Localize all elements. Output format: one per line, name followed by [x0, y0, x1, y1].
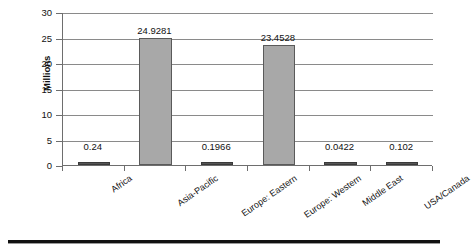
x-axis-category-label: Asia-Pacific: [175, 173, 219, 208]
bar: [324, 162, 356, 166]
bar-value-label: 24.9281: [124, 26, 186, 36]
bar: [78, 162, 110, 166]
x-axis-tick-mark: [185, 166, 186, 171]
bar-value-label: 0.1966: [185, 142, 247, 152]
x-axis-tick-mark: [432, 166, 433, 171]
y-axis-tick-label: 25: [0, 34, 52, 44]
gridline: [63, 115, 433, 116]
x-axis-category-label: Europe: Western: [302, 173, 363, 220]
x-axis-tick-mark: [247, 166, 248, 171]
x-axis-tick-mark: [309, 166, 310, 171]
y-axis-tick-label: 20: [0, 59, 52, 69]
x-axis-tick-mark: [62, 166, 63, 171]
bar: [139, 38, 171, 165]
y-axis-tick-mark: [56, 115, 62, 116]
y-axis-tick-label: 15: [0, 85, 52, 95]
bar-value-label: 23.4528: [247, 33, 309, 43]
x-axis-category-label: Middle East: [360, 173, 404, 208]
x-axis-category-label: Europe: Eastern: [240, 173, 299, 219]
bar-value-label: 0.24: [62, 142, 124, 152]
y-axis-tick-label: 5: [0, 136, 52, 146]
x-axis-tick-mark: [370, 166, 371, 171]
x-axis-category-label: Africa: [109, 173, 134, 194]
gridline: [63, 13, 433, 14]
gridline: [63, 64, 433, 65]
y-axis-tick-mark: [56, 39, 62, 40]
y-axis-tick-mark: [56, 13, 62, 14]
gridline: [63, 90, 433, 91]
bar-value-label: 0.0422: [309, 142, 371, 152]
y-axis-tick-label: 30: [0, 8, 52, 18]
y-axis-tick-mark: [56, 64, 62, 65]
y-axis-tick-label: 0: [0, 161, 52, 171]
y-axis-tick-label: 10: [0, 110, 52, 120]
bar: [263, 45, 295, 165]
y-axis-tick-mark: [56, 90, 62, 91]
bar: [386, 162, 418, 166]
bar-value-label: 0.102: [370, 142, 432, 152]
x-axis-tick-mark: [124, 166, 125, 171]
footer-rule-shadow: [8, 243, 440, 244]
bar: [201, 162, 233, 166]
x-axis-category-label: USA/Canada: [423, 173, 471, 211]
